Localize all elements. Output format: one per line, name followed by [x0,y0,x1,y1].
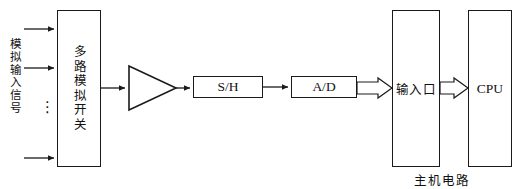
mux-block: 多路模拟开关 [57,10,101,167]
channel-ellipsis: ⋮ [40,100,55,115]
mux-block-label: 多路模拟开关 [71,45,86,133]
adc-block-label: A/D [312,79,335,95]
amplifier-symbol [129,66,176,110]
adc-block: A/D [291,76,357,98]
input-port-block: 输入口 [392,10,440,167]
analog-input-signal-label: 模拟输入信号 [8,38,21,115]
sample-hold-block-label: S/H [217,79,238,95]
host-circuit-caption: 主机电路 [414,170,470,189]
sample-hold-block: S/H [193,76,263,98]
input-port-to-cpu-block-arrow [440,78,468,98]
cpu-block-label: CPU [477,81,503,97]
input-port-block-label: 输入口 [396,79,437,98]
block-diagram: 模拟输入信号 ⋮ 多路模拟开关 S/H A/D 输入口 CPU 主机电路 [0,0,520,189]
cpu-block: CPU [468,10,512,167]
adc-to-input-port-block-arrow [357,78,392,98]
